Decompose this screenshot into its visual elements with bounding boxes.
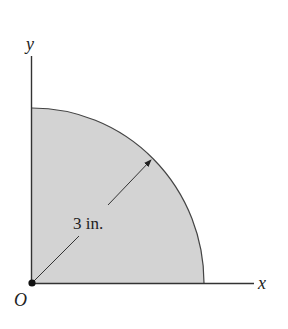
y-axis-label: y	[24, 34, 34, 54]
radius-label: 3 in.	[73, 214, 103, 233]
quarter-circle-diagram: y x O 3 in.	[0, 0, 288, 329]
origin-point	[28, 279, 35, 286]
origin-label: O	[14, 290, 27, 310]
x-axis-label: x	[257, 273, 266, 293]
